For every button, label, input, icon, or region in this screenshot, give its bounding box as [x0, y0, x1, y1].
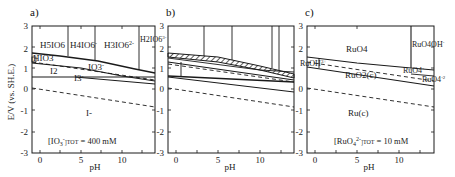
- xtick-0: 0: [38, 155, 43, 165]
- label-ruo2c: RuO2(c): [345, 70, 377, 80]
- panel-b-xticks: 0 5 10: [174, 155, 265, 165]
- panel-b-lines: [168, 26, 294, 107]
- xtick-0: 0: [174, 155, 179, 165]
- panel-a-yticks: 3 2 1 0 -1 -2 -3: [21, 21, 29, 158]
- ytick-3: 3: [160, 21, 165, 31]
- panel-c-xticks: 0 5 10: [313, 155, 404, 165]
- label-i2: I2: [50, 66, 58, 76]
- ytick-2: 2: [160, 44, 165, 54]
- label-ruo4: RuO4: [346, 44, 368, 54]
- panel-c-label: c): [305, 6, 314, 19]
- panel-b-hatched-band: [168, 53, 294, 78]
- label-h2io6: H2IO63-: [140, 35, 167, 44]
- ytick-0: 0: [24, 84, 29, 94]
- panel-c-concentration-note: [RuO42-]TOT = 10 mM: [334, 136, 409, 147]
- panel-c-species: RuO4 RuO4OH- RuOH3+ RuO2(c) RuO4- RuO4-2…: [300, 40, 446, 147]
- xtick-10: 10: [256, 155, 266, 165]
- panel-a-xlabel: pH: [90, 162, 102, 172]
- panel-b: b) 3 2 1 0 -1 -2 -3 0 5 10 pH: [157, 6, 295, 172]
- ytick-1: 1: [24, 64, 29, 74]
- ytick-m2: -2: [157, 127, 165, 137]
- label-ruo4oh: RuO4OH-: [412, 40, 445, 49]
- xtick-5: 5: [355, 155, 360, 165]
- label-ruo4minus: RuO4-: [403, 66, 424, 75]
- ytick-1: 1: [160, 64, 165, 74]
- ytick-m1: -1: [21, 106, 29, 116]
- label-h5io6: H5IO6: [40, 40, 65, 50]
- panel-a-label: a): [30, 6, 39, 19]
- ytick-3: 3: [24, 21, 29, 31]
- ytick-m3: -3: [296, 148, 304, 158]
- panel-a: a) 3 2 1 0 -1 -2 -3 0 5 10 pH: [21, 6, 167, 172]
- panel-c-yticks: 3 2 0 -1 -2 -3: [296, 21, 304, 158]
- y-axis-title: E/V (vs. SH.E.): [6, 64, 16, 121]
- label-h4io6: H4IO6-: [70, 40, 97, 50]
- panel-b-xlabel: pH: [225, 162, 237, 172]
- ytick-m2: -2: [296, 127, 304, 137]
- label-iminus: I-: [86, 108, 92, 118]
- panel-c: c) 3 2 0 -1 -2 -3 0 5 10 pH: [296, 6, 446, 172]
- label-io3: IO3-: [88, 62, 104, 72]
- ytick-0: 0: [299, 84, 304, 94]
- ytick-2: 2: [24, 44, 29, 54]
- figure: E/V (vs. SH.E.) a) 3 2 1 0 -1 -2 -3 0 5: [0, 0, 455, 177]
- panel-b-label: b): [166, 6, 176, 19]
- label-i3: I3-: [74, 73, 84, 83]
- xtick-0: 0: [313, 155, 318, 165]
- panel-a-concentration-note: [IO3-]TOT = 400 mM: [48, 136, 117, 147]
- label-ruc: Ru(c): [348, 108, 369, 118]
- panel-c-xlabel: pH: [364, 162, 376, 172]
- label-h3io6: H3IO62-: [104, 40, 134, 50]
- ytick-m3: -3: [157, 148, 165, 158]
- ytick-0: 0: [160, 84, 165, 94]
- ytick-2: 2: [299, 44, 304, 54]
- label-hio3: HIO3: [33, 53, 54, 63]
- ytick-3: 3: [299, 21, 304, 31]
- ytick-m2: -2: [21, 127, 29, 137]
- ytick-m1: -1: [296, 106, 304, 116]
- xtick-10: 10: [395, 155, 405, 165]
- ytick-m1: -1: [157, 106, 165, 116]
- label-ruoh: RuOH3+: [300, 59, 326, 68]
- panel-a-xticks: 0 5 10: [38, 155, 127, 165]
- xtick-10: 10: [118, 155, 128, 165]
- ytick-m3: -3: [21, 148, 29, 158]
- label-ruo42minus: RuO4-2: [422, 75, 446, 84]
- xtick-5: 5: [216, 155, 221, 165]
- xtick-5: 5: [79, 155, 84, 165]
